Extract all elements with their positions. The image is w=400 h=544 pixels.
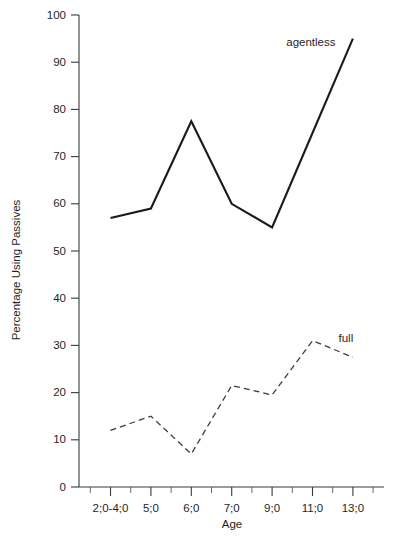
x-axis-ticks: 2;0-4;05;06;07;09;011;013;0 <box>90 487 373 514</box>
y-tick-label: 90 <box>53 56 66 68</box>
x-axis-title: Age <box>222 518 242 530</box>
series-label-full: full <box>339 332 354 344</box>
x-tick-label: 13;0 <box>342 502 364 514</box>
chart-axes <box>79 15 384 487</box>
y-tick-label: 30 <box>53 339 66 351</box>
chart-series-group <box>111 39 353 454</box>
chart-figure: 0102030405060708090100 2;0-4;05;06;07;09… <box>0 0 400 544</box>
series-line-full <box>111 341 353 454</box>
y-tick-label: 20 <box>53 386 66 398</box>
y-tick-label: 40 <box>53 292 66 304</box>
y-axis-ticks: 0102030405060708090100 <box>47 9 79 493</box>
y-tick-label: 70 <box>53 150 66 162</box>
series-line-agentless <box>111 39 353 228</box>
y-axis-title: Percentage Using Passives <box>10 199 22 340</box>
x-tick-label: 5;0 <box>143 502 159 514</box>
x-tick-label: 9;0 <box>264 502 280 514</box>
y-tick-label: 60 <box>53 197 66 209</box>
x-tick-label: 2;0-4;0 <box>93 502 129 514</box>
y-tick-label: 0 <box>60 481 66 493</box>
y-tick-label: 50 <box>53 245 66 257</box>
y-tick-label: 100 <box>47 9 66 21</box>
y-tick-label: 80 <box>53 103 66 115</box>
series-label-agentless: agentless <box>286 36 335 48</box>
x-tick-label: 7;0 <box>224 502 240 514</box>
y-tick-label: 10 <box>53 433 66 445</box>
x-tick-label: 11;0 <box>302 502 324 514</box>
x-tick-label: 6;0 <box>183 502 199 514</box>
line-chart: 0102030405060708090100 2;0-4;05;06;07;09… <box>0 0 400 544</box>
